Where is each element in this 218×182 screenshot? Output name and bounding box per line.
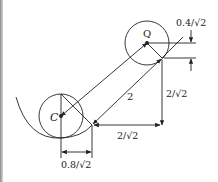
q-radius-line (147, 43, 162, 58)
label-c: C (50, 111, 59, 124)
label-vertical-dim: 2/√2 (166, 88, 187, 99)
label-diagonal-2: 2 (127, 91, 133, 102)
diagonal-extension (162, 37, 183, 58)
geometry-diagram: C Q 2 2/√2 2/√2 0.4/√2 0.8/√2 (0, 0, 218, 182)
label-horizontal-dim: 2/√2 (117, 130, 138, 141)
label-bottom-offset: 0.8/√2 (61, 159, 91, 170)
c-to-q-line (61, 43, 147, 116)
label-top-offset: 0.4/√2 (176, 17, 206, 28)
label-q: Q (143, 28, 151, 39)
c-radius-diagonal (61, 94, 92, 125)
